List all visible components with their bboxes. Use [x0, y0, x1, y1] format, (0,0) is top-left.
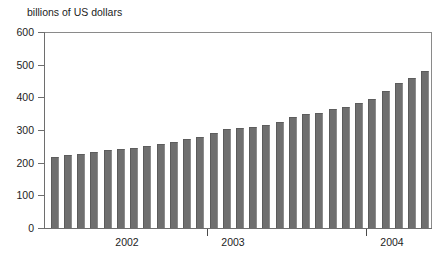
y-axis-tick-label: 100	[0, 190, 34, 201]
bar	[183, 139, 191, 228]
bar	[51, 157, 59, 228]
bar	[368, 99, 376, 228]
y-axis-tick-label: 0	[0, 223, 34, 234]
bar	[408, 78, 416, 228]
bar	[143, 146, 151, 228]
y-axis-tick-label: 200	[0, 158, 34, 169]
bar	[196, 137, 204, 228]
y-axis-tick-label: 600	[0, 27, 34, 38]
bar	[382, 91, 390, 228]
y-axis-labels: 0100200300400500600	[0, 0, 34, 253]
y-axis-tick-label: 500	[0, 60, 34, 71]
x-axis-year-divider	[207, 229, 208, 236]
bar	[236, 128, 244, 228]
bar	[90, 152, 98, 228]
bar	[315, 113, 323, 228]
plot-area	[44, 32, 432, 228]
bar	[355, 103, 363, 228]
x-axis-year-divider	[366, 229, 367, 236]
bar-chart: billions of US dollars 01002003004005006…	[0, 0, 444, 253]
bar	[157, 144, 165, 228]
y-axis-tick-label: 300	[0, 125, 34, 136]
bar	[421, 71, 429, 228]
bar	[77, 154, 85, 228]
bar	[223, 129, 231, 228]
bar	[249, 127, 257, 228]
y-axis-tick-label: 400	[0, 92, 34, 103]
bar	[104, 150, 112, 228]
bar	[395, 83, 403, 228]
x-axis-tick-label: 2002	[115, 236, 138, 248]
x-axis-line	[44, 228, 432, 229]
bar	[210, 133, 218, 228]
bar	[64, 155, 72, 228]
bar	[262, 125, 270, 228]
bar	[117, 149, 125, 228]
x-axis-tick-label: 2003	[221, 236, 244, 248]
bar	[276, 122, 284, 228]
chart-axis-title: billions of US dollars	[27, 6, 122, 18]
bar	[130, 148, 138, 228]
bar	[289, 117, 297, 228]
bar	[302, 114, 310, 228]
bar	[170, 142, 178, 228]
bar	[342, 107, 350, 228]
bar	[329, 109, 337, 228]
x-axis-tick-label: 2004	[380, 236, 403, 248]
